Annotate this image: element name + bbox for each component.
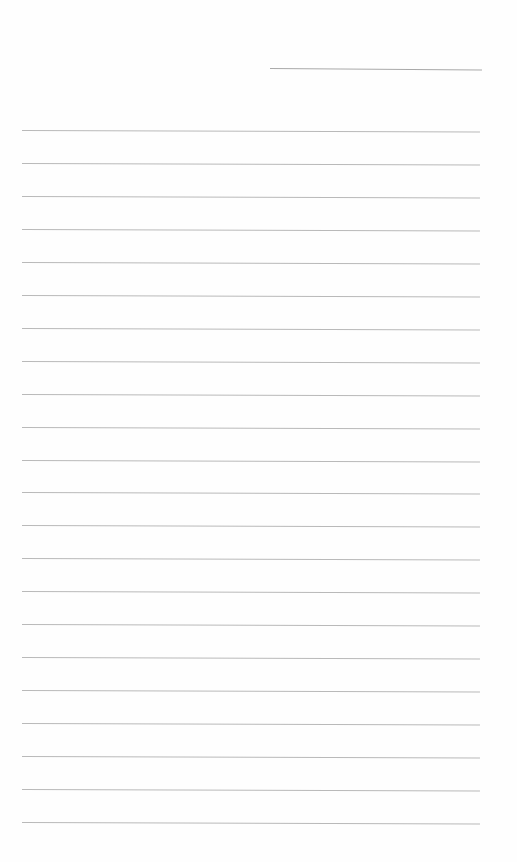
- ruled-line: [22, 361, 480, 363]
- ruled-line: [22, 789, 480, 791]
- ruled-line: [22, 492, 480, 494]
- ruled-line: [22, 196, 480, 198]
- ruled-line: [22, 822, 480, 824]
- ruled-line: [22, 723, 480, 725]
- ruled-paper-sheet: [0, 0, 517, 862]
- ruled-line: [22, 525, 480, 527]
- ruled-line: [22, 756, 480, 758]
- ruled-line: [22, 328, 480, 330]
- ruled-line: [22, 460, 480, 462]
- ruled-line: [22, 130, 480, 132]
- ruled-line: [22, 295, 480, 297]
- ruled-line: [22, 394, 480, 396]
- ruled-line: [22, 262, 480, 264]
- ruled-line: [22, 163, 480, 165]
- ruled-line: [22, 591, 480, 593]
- ruled-line: [22, 657, 480, 659]
- ruled-line: [22, 229, 480, 231]
- ruled-line: [22, 690, 480, 692]
- ruled-line: [22, 558, 480, 560]
- ruled-line: [22, 624, 480, 626]
- ruled-line: [22, 427, 480, 429]
- header-name-line: [270, 68, 482, 70]
